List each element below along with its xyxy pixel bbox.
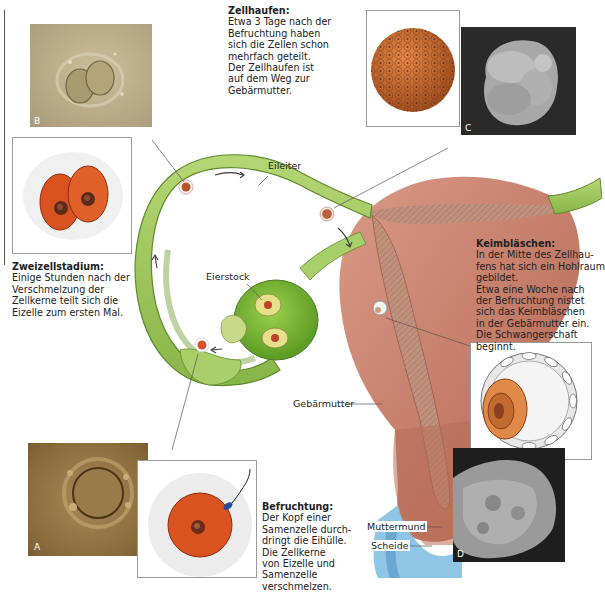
caption-line: mehrfach geteilt. <box>228 51 331 62</box>
two-cell-illustration-frame <box>12 137 132 254</box>
caption-line: In der Mitte des Zellhau- <box>476 249 605 260</box>
two-cell-micrograph-drawing <box>30 24 152 127</box>
caption-line: verschmelzen. <box>262 581 351 592</box>
label-scheide: Scheide <box>370 540 410 551</box>
label-eileiter: Eileiter <box>268 160 301 171</box>
label-gebaermutter: Gebärmutter <box>293 398 354 409</box>
photo-letter-c: C <box>465 123 471 133</box>
morula-in-tube <box>320 207 334 221</box>
photo-d-blastocyst-sem: D <box>453 448 565 562</box>
photo-a-oocyte-micrograph: A <box>28 443 148 556</box>
caption-line: Samenzelle durch- <box>262 524 351 535</box>
caption-line: gebildet. <box>476 272 605 283</box>
caption-line: in der Gebärmutter ein. <box>476 318 605 329</box>
fertilization-drawing <box>138 461 258 579</box>
caption-line: Zellkerne teilt sich die <box>12 295 130 306</box>
caption-line: Der Kopf einer <box>262 512 351 523</box>
label-muttermund: Muttermund <box>366 521 427 532</box>
caption-zellhaufen: Zellhaufen: Etwa 3 Tage nach der Befruch… <box>228 5 331 96</box>
label-eierstock: Eierstock <box>206 271 250 282</box>
oocyte-micrograph-drawing <box>28 443 148 556</box>
caption-line: Samenzelle <box>262 569 351 580</box>
caption-line: Die Zellkerne <box>262 547 351 558</box>
egg-in-ampulla <box>195 338 209 352</box>
caption-line: Eizelle zum ersten Mal. <box>12 307 130 318</box>
caption-line: Die Schwangerschaft <box>476 329 605 340</box>
caption-line: Einige Stunden nach der <box>12 272 130 283</box>
caption-line: fens hat sich ein Hohlraum <box>476 261 605 272</box>
fertilization-illustration-frame <box>137 460 257 578</box>
caption-befruchtung: Befruchtung: Der Kopf einer Samenzelle d… <box>262 501 351 592</box>
caption-line: Der Zellhaufen ist <box>228 62 331 73</box>
blastocyst-drawing <box>471 343 593 461</box>
caption-zweizellstadium-title: Zweizellstadium: <box>12 261 130 272</box>
caption-befruchtung-title: Befruchtung: <box>262 501 351 512</box>
photo-c-morula-sem: C <box>461 27 576 135</box>
caption-keimblaeschen-title: Keimbläschen: <box>476 238 605 249</box>
photo-b-two-cell-micrograph: B <box>30 24 152 127</box>
caption-line: Befruchtung haben <box>228 28 331 39</box>
morula-sem-drawing <box>461 27 576 135</box>
caption-line: sich die Zellen schon <box>228 39 331 50</box>
blastocyst-implanting <box>373 301 387 315</box>
caption-zweizellstadium: Zweizellstadium: Einige Stunden nach der… <box>12 261 130 318</box>
caption-line: Etwa 3 Tage nach der <box>228 16 331 27</box>
caption-zellhaufen-title: Zellhaufen: <box>228 5 331 16</box>
caption-line: auf dem Weg zur <box>228 73 331 84</box>
two-cell-drawing <box>13 138 133 255</box>
caption-line: Verschmelzung der <box>12 284 130 295</box>
morula-drawing <box>367 11 461 128</box>
caption-keimblaeschen: Keimbläschen: In der Mitte des Zellhau- … <box>476 238 605 352</box>
blastocyst-sem-drawing <box>453 448 565 562</box>
caption-line: dringt die Eihülle. <box>262 535 351 546</box>
caption-line: von Eizelle und <box>262 558 351 569</box>
photo-letter-d: D <box>457 549 464 559</box>
caption-line: sich das Keimbläschen <box>476 306 605 317</box>
caption-line: Etwa eine Woche nach <box>476 284 605 295</box>
caption-line: beginnt. <box>476 341 605 352</box>
photo-letter-a: A <box>34 542 40 552</box>
ovary <box>221 280 318 360</box>
two-cell-embryo-in-tube <box>179 180 193 194</box>
blastocyst-illustration-frame <box>470 342 592 460</box>
morula-illustration-frame <box>366 10 460 127</box>
caption-line: der Befruchtung nistet <box>476 295 605 306</box>
caption-line: Gebärmutter. <box>228 85 331 96</box>
fallopian-tube-right <box>548 178 602 214</box>
photo-letter-b: B <box>34 116 40 126</box>
